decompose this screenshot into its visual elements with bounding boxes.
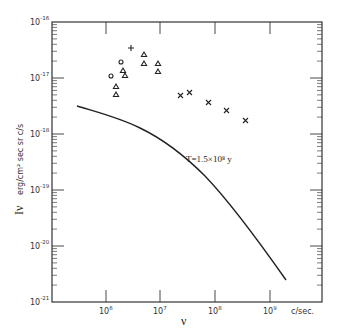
model-curve — [77, 106, 286, 280]
x-axis-title: ν — [181, 314, 187, 328]
svg-text:10-16: 10-16 — [30, 15, 50, 27]
x-tick-labels: 106 107 108 109 c/sec. — [99, 305, 314, 316]
y-axis-title: Iν erg/cm² sec sr c/s — [12, 124, 26, 215]
triangle-marker — [120, 68, 125, 73]
svg-text:10-19: 10-19 — [30, 183, 50, 195]
cross-marker — [206, 100, 211, 105]
plus-marker — [128, 45, 134, 51]
svg-text:10-20: 10-20 — [30, 239, 50, 251]
svg-text:10-18: 10-18 — [30, 127, 50, 139]
triangle-marker — [155, 61, 160, 66]
y-tick-labels: 10-16 10-17 10-18 10-19 10-20 10-21 — [30, 15, 50, 307]
x-units: c/sec. — [291, 307, 314, 316]
curve-label: T=1.5×10⁸ y — [186, 154, 232, 164]
cross-marker — [178, 93, 183, 98]
svg-text:Iν: Iν — [12, 205, 26, 215]
triangle-marker — [113, 84, 118, 89]
svg-text:10-21: 10-21 — [30, 295, 49, 307]
cross-marker — [187, 90, 192, 95]
triangle-marker — [155, 69, 160, 74]
triangle-marker — [141, 61, 146, 66]
svg-text:109: 109 — [263, 305, 277, 316]
triangle-marker — [141, 52, 146, 57]
triangle-marker — [113, 92, 118, 97]
svg-text:107: 107 — [153, 305, 167, 316]
triangle-marker — [122, 73, 127, 78]
svg-text:10-17: 10-17 — [30, 71, 50, 83]
cross-marker — [224, 108, 229, 113]
data-markers — [109, 45, 248, 123]
cross-marker — [243, 118, 248, 123]
svg-text:108: 108 — [208, 305, 222, 316]
circle-marker — [109, 74, 113, 78]
svg-text:106: 106 — [99, 305, 113, 316]
svg-text:erg/cm² sec sr c/s: erg/cm² sec sr c/s — [16, 124, 25, 195]
spectrum-chart: 10-16 10-17 10-18 10-19 10-20 10-21 106 … — [0, 0, 340, 335]
circle-marker — [119, 60, 123, 64]
